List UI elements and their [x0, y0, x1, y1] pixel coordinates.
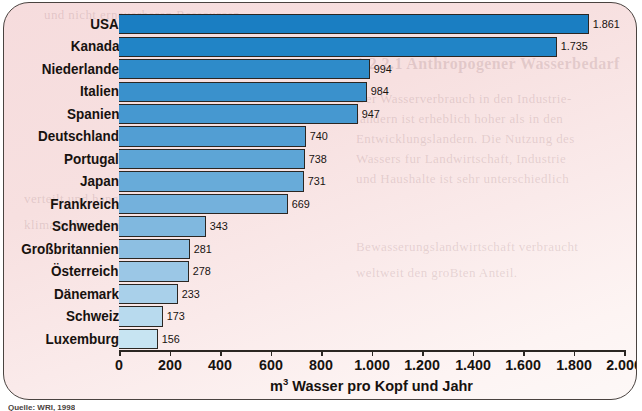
- category-label-niederlande: Niederlande: [42, 58, 119, 81]
- bar-value-label: 343: [206, 215, 228, 238]
- x-axis-tick-label: 800: [309, 356, 333, 373]
- bar-value-label: 233: [178, 283, 200, 306]
- x-axis-title: m3 Wasser pro Kopf und Jahr: [119, 378, 624, 394]
- category-label-schweden: Schweden: [52, 215, 119, 238]
- bar: [119, 261, 189, 281]
- bar-value-label: 1.861: [589, 13, 620, 36]
- bar-value-label: 156: [158, 328, 180, 351]
- x-axis-tick-label: 400: [208, 356, 232, 373]
- bar: [119, 239, 190, 259]
- x-axis-tick-label: 1.600: [505, 356, 541, 373]
- bar: [119, 104, 358, 124]
- bar: [119, 59, 370, 79]
- bar-value-label: 947: [358, 103, 380, 126]
- bar: [119, 82, 367, 102]
- bar-value-label: 1.735: [557, 35, 588, 58]
- bar-value-label: 994: [370, 58, 392, 81]
- x-axis-tick-label: 200: [158, 356, 182, 373]
- bar-value-label: 731: [304, 170, 326, 193]
- x-axis-tick-label: 1.800: [556, 356, 592, 373]
- bar-row: Portugal738: [4, 148, 637, 171]
- category-label-italien: Italien: [80, 80, 119, 103]
- bar-row: Dänemark233: [4, 283, 637, 306]
- bar-row: Luxemburg156: [4, 328, 637, 351]
- x-axis-tick-label: 1.400: [455, 356, 491, 373]
- bar: [119, 194, 288, 214]
- bar-row: Frankreich669: [4, 193, 637, 216]
- category-label-japan: Japan: [80, 170, 119, 193]
- bar-value-label: 278: [189, 260, 211, 283]
- category-label-frankreich: Frankreich: [50, 193, 119, 216]
- category-label-kanada: Kanada: [70, 35, 119, 58]
- category-label--sterreich: Österreich: [52, 260, 119, 283]
- bar-value-label: 738: [305, 148, 327, 171]
- bar: [119, 284, 178, 304]
- bar-value-label: 740: [306, 125, 328, 148]
- source-caption: Quelle: WRI, 1998: [8, 403, 75, 411]
- bar: [119, 14, 589, 34]
- bar-value-label: 984: [367, 80, 389, 103]
- bar-value-label: 281: [190, 238, 212, 261]
- bar-value-label: 669: [288, 193, 310, 216]
- bar: [119, 37, 557, 57]
- bar: [119, 216, 206, 236]
- bar-row: Kanada1.735: [4, 35, 637, 58]
- category-label-luxemburg: Luxemburg: [46, 328, 119, 351]
- bar: [119, 171, 304, 191]
- bar-row: Schweden343: [4, 215, 637, 238]
- category-label-portugal: Portugal: [64, 148, 119, 171]
- bar-row: Deutschland740: [4, 125, 637, 148]
- x-axis-tick-label: 1.200: [404, 356, 440, 373]
- bar-row: Spanien947: [4, 103, 637, 126]
- bar: [119, 149, 305, 169]
- x-axis-tick-label: 2.000: [606, 356, 637, 373]
- bar: [119, 306, 163, 326]
- bar-row: Italien984: [4, 80, 637, 103]
- bar: [119, 126, 306, 146]
- bar-row: Japan731: [4, 170, 637, 193]
- category-label-usa: USA: [91, 13, 119, 36]
- bar-value-label: 173: [163, 305, 185, 328]
- bar-row: Österreich278: [4, 260, 637, 283]
- category-label-deutschland: Deutschland: [38, 125, 119, 148]
- bar-row: USA1.861: [4, 13, 637, 36]
- bar-row: Schweiz173: [4, 305, 637, 328]
- x-axis-tick-label: 1.000: [354, 356, 390, 373]
- category-label-gro-britannien: Großbritannien: [22, 238, 119, 261]
- x-axis-tick-label: 600: [259, 356, 283, 373]
- category-label-d-nemark: Dänemark: [54, 283, 119, 306]
- bar-row: Großbritannien281: [4, 238, 637, 261]
- plot-area: USA1.861Kanada1.735Niederlande994Italien…: [4, 3, 637, 400]
- bar-row: Niederlande994: [4, 58, 637, 81]
- category-label-schweiz: Schweiz: [66, 305, 119, 328]
- bar: [119, 329, 158, 349]
- x-axis-tick-label: 0: [115, 356, 123, 373]
- category-label-spanien: Spanien: [67, 103, 119, 126]
- chart-panel: und nicht erneuerbaren Ressourcen 1.2.2.…: [3, 2, 637, 400]
